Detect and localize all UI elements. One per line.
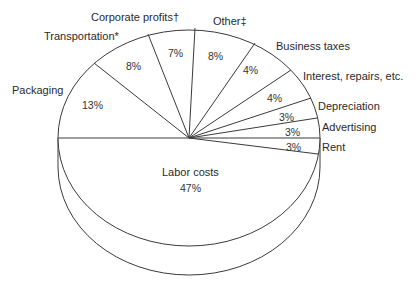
pct-labor-costs: 47% (180, 182, 201, 194)
pie-chart (0, 0, 415, 286)
label-business-taxes: Business taxes (276, 40, 350, 52)
pct-business-taxes: 4% (243, 64, 258, 76)
pct-corporate-profits: 7% (168, 47, 183, 59)
pct-advertising: 3% (285, 126, 300, 138)
label-transportation: Transportation* (44, 30, 119, 42)
pct-packaging: 13% (82, 99, 103, 111)
label-depreciation: Depreciation (318, 100, 380, 112)
label-advertising: Advertising (322, 121, 376, 133)
label-labor-costs: Labor costs (162, 166, 219, 178)
pct-depreciation: 3% (279, 111, 294, 123)
label-corporate-profits: Corporate profits† (91, 11, 179, 23)
pct-interest-repairs: 4% (267, 92, 282, 104)
label-packaging: Packaging (12, 84, 63, 96)
label-interest-repairs: Interest, repairs, etc. (303, 70, 403, 82)
pct-other: 8% (208, 50, 223, 62)
label-other: Other‡ (213, 15, 247, 27)
label-rent: Rent (322, 141, 345, 153)
pct-rent: 3% (286, 141, 301, 153)
pct-transportation: 8% (126, 60, 141, 72)
